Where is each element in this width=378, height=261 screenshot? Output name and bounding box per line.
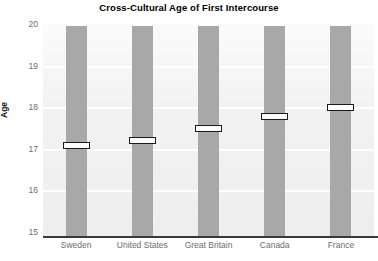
chart-title: Cross-Cultural Age of First Intercourse	[0, 2, 378, 13]
bar	[264, 26, 285, 236]
value-marker	[63, 142, 90, 149]
y-tick-label: 15	[8, 228, 38, 237]
x-axis-line	[43, 236, 378, 238]
value-marker	[129, 137, 156, 144]
x-tick-label: United States	[117, 240, 168, 250]
chart-container: Cross-Cultural Age of First Intercourse …	[0, 0, 378, 261]
value-marker	[261, 113, 288, 120]
x-tick-label: Sweden	[61, 240, 92, 250]
y-tick-label: 17	[8, 145, 38, 154]
bar	[132, 26, 153, 236]
y-tick-label: 19	[8, 62, 38, 71]
y-tick-label: 18	[8, 103, 38, 112]
value-marker	[327, 104, 354, 111]
value-marker	[195, 125, 222, 132]
x-tick-label: Great Britain	[185, 240, 233, 250]
x-tick-label: France	[328, 240, 354, 250]
gridline	[43, 24, 374, 25]
bar	[330, 26, 351, 236]
x-tick-label: Canada	[260, 240, 290, 250]
y-tick-label: 16	[8, 186, 38, 195]
plot-area	[43, 24, 374, 236]
bar	[66, 26, 87, 236]
y-tick-label: 20	[8, 20, 38, 29]
